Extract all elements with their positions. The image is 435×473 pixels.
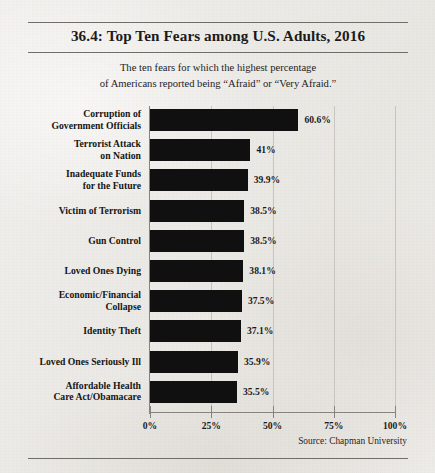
bar-value-label: 37.1% <box>247 325 273 336</box>
category-label-line: Corruption of <box>0 108 141 120</box>
category-label: Victim of Terrorism <box>0 205 141 217</box>
category-label-line: Loved Ones Seriously Ill <box>0 356 141 368</box>
x-axis-tick <box>273 406 274 418</box>
bar-row: Loved Ones Seriously Ill35.9% <box>0 350 435 374</box>
bar <box>150 351 238 373</box>
bar-value-label: 38.5% <box>250 235 276 246</box>
category-label: Affordable HealthCare Act/Obamacare <box>0 380 141 403</box>
footer-rule <box>28 458 408 459</box>
category-label-line: Care Act/Obamacare <box>0 391 141 403</box>
category-label: Corruption ofGovernment Officials <box>0 108 141 131</box>
bar <box>150 139 250 161</box>
category-label: Identity Theft <box>0 325 141 337</box>
bar-row: Terrorist Attackon Nation41% <box>0 138 435 162</box>
bar-row: Inadequate Fundsfor the Future39.9% <box>0 168 435 192</box>
bar <box>150 260 243 282</box>
category-label-line: on Nation <box>0 150 141 162</box>
bar-row: Victim of Terrorism38.5% <box>0 199 435 223</box>
category-label-line: Affordable Health <box>0 380 141 392</box>
bar-value-label: 35.9% <box>244 356 270 367</box>
bar-value-label: 35.5% <box>243 386 269 397</box>
category-label: Inadequate Fundsfor the Future <box>0 168 141 191</box>
bar <box>150 290 242 312</box>
bar-value-label: 38.1% <box>249 265 275 276</box>
x-axis-tick <box>334 406 335 418</box>
category-label-line: for the Future <box>0 180 141 192</box>
category-label-line: Government Officials <box>0 120 141 132</box>
category-label: Loved Ones Seriously Ill <box>0 356 141 368</box>
x-axis-tick-label: 75% <box>324 420 343 431</box>
category-label: Gun Control <box>0 235 141 247</box>
category-label-line: Victim of Terrorism <box>0 205 141 217</box>
source-note: Source: Chapman University <box>298 436 407 446</box>
bar <box>150 320 241 342</box>
category-label-line: Identity Theft <box>0 325 141 337</box>
x-axis-tick <box>211 406 212 418</box>
bar-value-label: 41% <box>256 144 275 155</box>
bar-value-label: 60.6% <box>304 114 330 125</box>
category-label-line: Gun Control <box>0 235 141 247</box>
bar-row: Economic/FinancialCollapse37.5% <box>0 289 435 313</box>
bar <box>150 230 244 252</box>
chart-page: 36.4: Top Ten Fears among U.S. Adults, 2… <box>0 0 435 473</box>
bar <box>150 381 237 403</box>
category-label: Economic/FinancialCollapse <box>0 289 141 312</box>
bar-row: Loved Ones Dying38.1% <box>0 259 435 283</box>
x-axis-tick-label: 0% <box>143 420 157 431</box>
category-label-line: Inadequate Funds <box>0 168 141 180</box>
bar-row: Corruption ofGovernment Officials60.6% <box>0 108 435 132</box>
category-label-line: Collapse <box>0 301 141 313</box>
x-axis-tick-label: 100% <box>383 420 407 431</box>
bar <box>150 200 244 222</box>
category-label-line: Loved Ones Dying <box>0 265 141 277</box>
bar-chart-plot-area: 0%25%50%75%100%Corruption ofGovernment O… <box>0 0 435 473</box>
category-label-line: Economic/Financial <box>0 289 141 301</box>
x-axis-tick-label: 25% <box>202 420 221 431</box>
x-axis-tick-label: 50% <box>263 420 282 431</box>
x-axis-tick <box>150 406 151 418</box>
category-label: Terrorist Attackon Nation <box>0 138 141 161</box>
category-label-line: Terrorist Attack <box>0 138 141 150</box>
bar-value-label: 39.9% <box>254 174 280 185</box>
bar-value-label: 37.5% <box>248 295 274 306</box>
x-axis-tick <box>395 406 396 418</box>
bar-value-label: 38.5% <box>250 205 276 216</box>
category-label: Loved Ones Dying <box>0 265 141 277</box>
bar <box>150 169 248 191</box>
bar-row: Affordable HealthCare Act/Obamacare35.5% <box>0 380 435 404</box>
bar-row: Identity Theft37.1% <box>0 319 435 343</box>
bar-row: Gun Control38.5% <box>0 229 435 253</box>
bar <box>150 109 298 131</box>
